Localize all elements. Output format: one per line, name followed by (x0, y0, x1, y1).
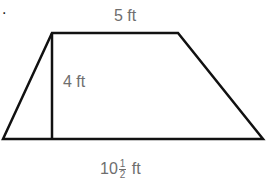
top-base-label: 5 ft (114, 8, 136, 24)
bottom-base-whole: 10 (100, 160, 118, 177)
bottom-base-label: 1012 ft (100, 159, 141, 180)
height-label: 4 ft (63, 74, 85, 90)
fraction-denominator: 2 (119, 170, 127, 180)
bottom-base-unit: ft (132, 160, 141, 177)
trapezoid-figure (0, 0, 266, 184)
bottom-base-fraction: 12 (119, 159, 127, 180)
trapezoid-outline (3, 33, 263, 139)
